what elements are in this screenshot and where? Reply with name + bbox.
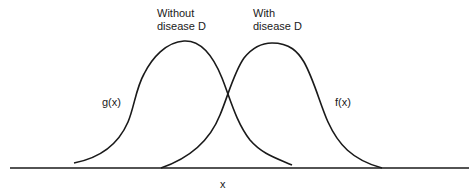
label-g-of-x: g(x) <box>102 96 121 109</box>
label-without-line2: disease D <box>157 20 206 33</box>
disease-distribution-diagram: Without disease D With disease D g(x) f(… <box>0 0 474 194</box>
label-with-line1: With <box>253 7 302 20</box>
label-without-disease: Without disease D <box>157 7 206 33</box>
label-without-line1: Without <box>157 7 206 20</box>
x-axis-label: x <box>220 178 226 191</box>
label-with-disease: With disease D <box>253 7 302 33</box>
label-with-line2: disease D <box>253 20 302 33</box>
diagram-canvas <box>0 0 474 194</box>
label-f-of-x: f(x) <box>335 96 351 109</box>
